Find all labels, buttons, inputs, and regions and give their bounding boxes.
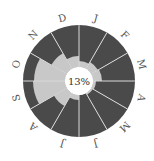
month-label-feb: F [119, 29, 132, 42]
month-label-jan: J [91, 12, 99, 24]
month-label-mar: M [135, 58, 148, 71]
month-label-aug: A [26, 120, 40, 134]
month-label-may: M [117, 119, 132, 134]
month-label-sep: S [10, 93, 22, 103]
month-label-nov: N [26, 28, 40, 42]
center-percent-label: 13% [68, 76, 90, 87]
month-label-jun: J [92, 138, 100, 150]
month-label-oct: O [10, 59, 23, 70]
month-label-apr: A [135, 92, 148, 104]
radial-month-chart: JFMAMJJASOND 13% [0, 0, 154, 161]
month-label-dec: D [57, 12, 68, 25]
month-label-jul: J [59, 138, 67, 150]
